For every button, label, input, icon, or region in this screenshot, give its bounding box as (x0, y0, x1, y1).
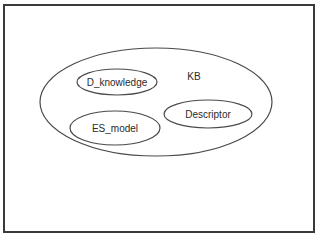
d-knowledge-label: D_knowledge (87, 77, 148, 88)
kb-diagram: KB D_knowledge ES_model Descriptor (0, 0, 317, 235)
kb-container: KB (40, 48, 272, 156)
descriptor-node: Descriptor (164, 100, 252, 128)
d-knowledge-node: D_knowledge (77, 69, 157, 95)
es-model-node: ES_model (70, 111, 160, 145)
kb-label: KB (187, 71, 201, 82)
descriptor-label: Descriptor (185, 109, 231, 120)
kb-ellipse (40, 48, 272, 156)
es-model-label: ES_model (92, 123, 138, 134)
